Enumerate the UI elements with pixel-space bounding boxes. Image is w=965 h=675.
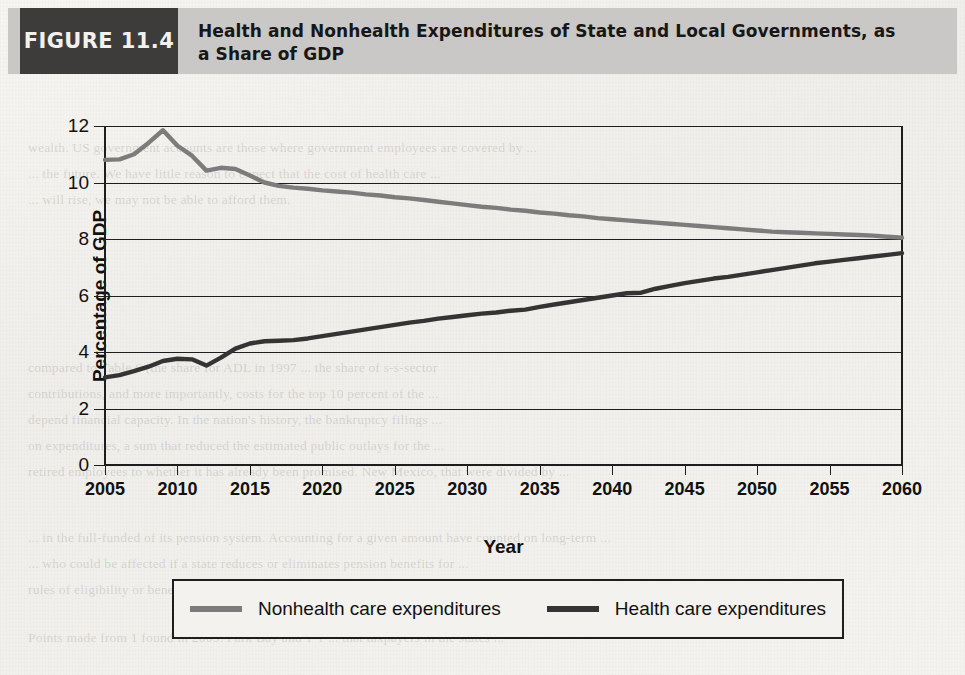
y-axis-tick [94,183,105,184]
x-axis-tick-label: 2055 [810,479,850,500]
x-axis-tick-label: 2015 [230,479,270,500]
x-axis-tick [467,465,468,475]
chart-area: Percentage of GDP 024681012 200520102015… [0,84,965,675]
figure-header-bar: FIGURE 11.4 Health and Nonhealth Expendi… [8,8,957,74]
y-axis-tick-label: 10 [68,172,89,194]
x-axis-tick-label: 2040 [592,479,632,500]
legend-label-health: Health care expenditures [615,598,826,620]
series-line-nonhealth [105,130,902,237]
x-axis-tick [250,465,251,475]
chart-legend: Nonhealth care expendituresHealth care e… [172,579,844,639]
x-axis-tick-label: 2035 [520,479,560,500]
y-axis-tick [94,409,105,410]
legend-item-health[interactable]: Health care expenditures [547,598,826,620]
x-axis-tick-label: 2045 [665,479,705,500]
x-axis-tick-label: 2050 [737,479,777,500]
plot-region: 024681012 200520102015202020252030203520… [105,126,902,465]
x-axis-tick [177,465,178,475]
x-axis-tick-label: 2025 [375,479,415,500]
y-axis-tick-label: 0 [78,454,89,476]
x-axis-tick-label: 2020 [302,479,342,500]
y-axis-tick [94,465,105,466]
x-axis-tick [902,465,903,475]
x-axis-tick-label: 2030 [447,479,487,500]
x-axis-tick [830,465,831,475]
figure-title: Health and Nonhealth Expenditures of Sta… [198,20,898,66]
y-axis-tick-label: 2 [78,398,89,420]
y-axis-tick [94,296,105,297]
x-axis-tick [685,465,686,475]
x-axis-tick [105,465,106,475]
x-axis-tick [395,465,396,475]
legend-label-nonhealth: Nonhealth care expenditures [258,598,501,620]
x-axis-tick-label: 2005 [85,479,125,500]
x-axis-tick-label: 2060 [882,479,922,500]
legend-swatch-health [547,606,599,612]
y-axis-tick [94,126,105,127]
x-axis-tick [322,465,323,475]
series-lines [105,126,902,465]
x-axis-title: Year [105,536,902,558]
legend-swatch-nonhealth [190,606,242,612]
y-axis-tick [94,352,105,353]
x-axis-tick [540,465,541,475]
y-axis-tick-label: 4 [78,341,89,363]
y-axis-tick-label: 8 [78,228,89,250]
legend-item-nonhealth[interactable]: Nonhealth care expenditures [190,598,501,620]
y-axis-tick [94,239,105,240]
x-axis-tick [757,465,758,475]
x-axis-tick [612,465,613,475]
y-axis-tick-label: 6 [78,285,89,307]
figure-number-badge: FIGURE 11.4 [20,8,178,74]
figure-number-label: FIGURE 11.4 [24,29,175,53]
series-line-health [105,253,902,377]
y-axis-tick-label: 12 [68,115,89,137]
x-axis-tick-label: 2010 [157,479,197,500]
